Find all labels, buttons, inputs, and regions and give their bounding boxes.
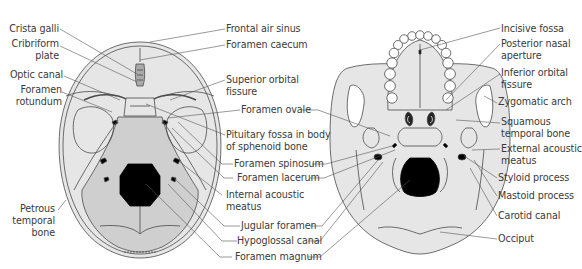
label-foramen-rotundum-line1: Foramen: [16, 84, 62, 96]
label-petrous-line2: temporal: [12, 215, 55, 227]
label-petrous-temporal-bone: Petrous temporal bone: [12, 203, 55, 239]
label-incisive-fossa: Incisive fossa: [501, 23, 564, 35]
label-inferior-orbital-line2: fissure: [501, 79, 568, 91]
label-internal-acoustic-line2: meatus: [226, 201, 304, 213]
label-internal-acoustic-line1: Internal acoustic: [226, 189, 304, 201]
label-external-acoustic-line1: External acoustic: [501, 143, 582, 155]
label-mastoid-process: Mastoid process: [498, 190, 574, 202]
label-hypoglossal-canal: Hypoglossal canal: [237, 235, 322, 247]
label-superior-orbital-line2: fissure: [226, 86, 299, 98]
label-inferior-orbital-fissure: Inferior orbital fissure: [501, 67, 568, 91]
label-squamous-temporal-bone: Squamous temporal bone: [501, 116, 570, 140]
label-squamous-line1: Squamous: [501, 116, 570, 128]
label-foramen-ovale: Foramen ovale: [241, 104, 311, 116]
label-occiput: Occiput: [498, 233, 534, 245]
label-foramen-lacerum: Foramen lacerum: [237, 172, 320, 184]
label-jugular-foramen: Jugular foramen: [241, 220, 317, 232]
label-cribriform-plate: Cribriform plate: [12, 38, 59, 62]
label-posterior-nasal-aperture: Posterior nasal aperture: [501, 38, 570, 62]
label-foramen-magnum: Foramen magnum: [235, 251, 322, 263]
internal-skull-base-drawing: [59, 42, 221, 258]
label-posterior-nasal-line1: Posterior nasal: [501, 38, 570, 50]
label-crista-galli: Crista galli: [9, 23, 59, 35]
label-carotid-canal: Carotid canal: [498, 210, 560, 222]
label-superior-orbital-line1: Superior orbital: [226, 74, 299, 86]
label-squamous-line2: temporal bone: [501, 128, 570, 140]
label-foramen-spinosum: Foramen spinosum: [234, 158, 324, 170]
label-foramen-rotundum: Foramen rotundum: [16, 84, 62, 108]
label-petrous-line1: Petrous: [12, 203, 55, 215]
label-pituitary-fossa: Pituitary fossa in body of sphenoid bone: [226, 129, 330, 153]
label-superior-orbital-fissure: Superior orbital fissure: [226, 74, 299, 98]
label-zygomatic-arch: Zygomatic arch: [498, 96, 572, 108]
label-pituitary-line2: of sphenoid bone: [226, 141, 330, 153]
label-petrous-line3: bone: [12, 227, 55, 239]
label-optic-canal: Optic canal: [10, 69, 63, 81]
label-frontal-air-sinus: Frontal air sinus: [226, 23, 301, 35]
label-cribriform-plate-line2: plate: [12, 50, 59, 62]
label-posterior-nasal-line2: aperture: [501, 50, 570, 62]
label-cribriform-plate-line1: Cribriform: [12, 38, 59, 50]
label-foramen-rotundum-line2: rotundum: [16, 96, 62, 108]
label-external-acoustic-line2: meatus: [501, 155, 582, 167]
external-skull-base-drawing: [330, 31, 510, 254]
label-pituitary-line1: Pituitary fossa in body: [226, 129, 330, 141]
label-foramen-caecum: Foramen caecum: [226, 39, 308, 51]
label-internal-acoustic-meatus: Internal acoustic meatus: [226, 189, 304, 213]
label-styloid-process: Styloid process: [498, 172, 569, 184]
label-inferior-orbital-line1: Inferior orbital: [501, 67, 568, 79]
label-external-acoustic-meatus: External acoustic meatus: [501, 143, 582, 167]
